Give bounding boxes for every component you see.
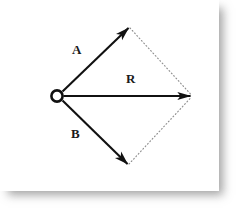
vector-a-label: A <box>72 43 81 56</box>
construction-line-b <box>129 97 192 164</box>
figure-card-inner: A B R <box>0 0 219 191</box>
vector-diagram <box>0 0 219 191</box>
origin-point-icon <box>51 90 62 101</box>
construction-line-a <box>130 28 192 95</box>
resultant-label: R <box>126 72 135 85</box>
vector-a-arrow <box>63 28 129 92</box>
figure-canvas: A B R <box>0 0 245 214</box>
figure-card: A B R <box>0 0 219 191</box>
vector-b-label: B <box>71 127 80 140</box>
